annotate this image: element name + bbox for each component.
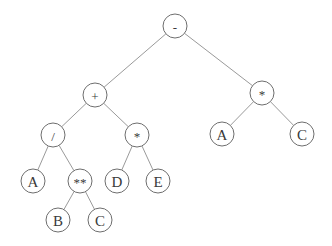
tree-node: * <box>125 123 149 147</box>
node-label: * <box>259 87 266 102</box>
tree-edge <box>59 145 74 170</box>
tree-node: B <box>46 208 70 232</box>
tree-node: A <box>21 169 45 193</box>
tree-edge <box>230 102 253 126</box>
node-label: C <box>95 213 105 229</box>
tree-edge <box>62 103 87 126</box>
tree-edge <box>104 103 129 126</box>
tree-edge <box>38 146 48 170</box>
tree-edge <box>185 33 253 85</box>
tree-edge <box>270 102 293 126</box>
node-label: D <box>112 174 123 190</box>
node-label: A <box>28 174 39 190</box>
tree-node: E <box>146 169 170 193</box>
node-label: E <box>153 174 162 190</box>
node-label: - <box>173 20 177 35</box>
tree-edge <box>122 146 132 170</box>
tree-edge <box>142 146 153 170</box>
tree-edge <box>85 192 94 210</box>
tree-node: * <box>250 81 274 105</box>
node-label: / <box>51 129 55 144</box>
expression-tree-diagram: -+*/*ACA**DEBC <box>0 0 332 246</box>
tree-node: / <box>41 123 65 147</box>
tree-node: A <box>210 122 234 146</box>
node-label: B <box>53 213 63 229</box>
tree-node: + <box>83 83 107 107</box>
tree-node: ** <box>68 169 92 193</box>
node-label: ** <box>74 175 87 190</box>
tree-node: D <box>105 169 129 193</box>
tree-node: C <box>88 208 112 232</box>
tree-edge <box>64 191 74 209</box>
node-label: * <box>134 129 141 144</box>
tree-node: C <box>290 122 314 146</box>
node-label: A <box>217 127 228 143</box>
node-label: + <box>91 89 98 104</box>
tree-edge <box>104 34 166 87</box>
node-label: C <box>297 127 307 143</box>
tree-node: - <box>163 14 187 38</box>
